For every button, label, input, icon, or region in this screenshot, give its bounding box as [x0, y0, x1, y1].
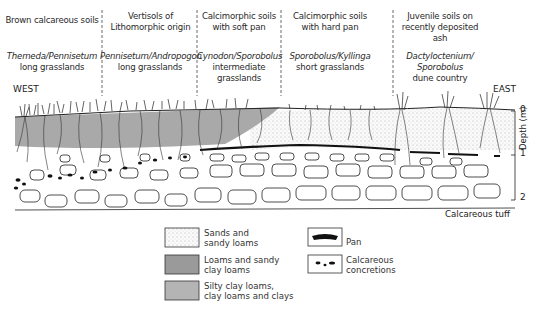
- soil-cross-section: [0, 0, 559, 310]
- legend-swatch-sands: [165, 228, 199, 247]
- legend-concretions-label-1: Calcareous: [346, 255, 396, 265]
- west-label: WEST: [13, 84, 39, 94]
- legend-clays-label-2: clay loams and clays: [204, 291, 294, 301]
- legend-sands-label-2: sandy loams: [204, 238, 258, 248]
- legend-loams: Loams and sandyclay loams: [204, 255, 279, 275]
- depth-axis-label: Depth (m): [518, 106, 528, 150]
- legend-pan-label: Pan: [346, 237, 362, 247]
- zone-dividers: [102, 10, 393, 96]
- legend-pan: Pan: [346, 237, 362, 247]
- legend-concretions: Calcareousconcretions: [346, 255, 396, 275]
- legend-loams-label-1: Loams and sandy: [204, 255, 279, 265]
- legend-concretions-label-2: concretions: [346, 265, 396, 275]
- legend-sands-label-1: Sands and: [204, 228, 258, 238]
- tuff-blocks: [20, 153, 500, 207]
- legend-clays-label-1: Silty clay loams,: [204, 281, 294, 291]
- legend-clays: Silty clay loams,clay loams and clays: [204, 281, 294, 301]
- legend-swatch-loams: [165, 255, 199, 274]
- depth-tick-2: 2: [520, 192, 526, 202]
- legend-sands: Sands andsandy loams: [204, 228, 258, 248]
- east-label: EAST: [493, 84, 516, 94]
- substrate-label: Calcareous tuff: [445, 209, 510, 219]
- legend-loams-label-2: clay loams: [204, 265, 279, 275]
- legend-swatch-clays: [165, 281, 199, 300]
